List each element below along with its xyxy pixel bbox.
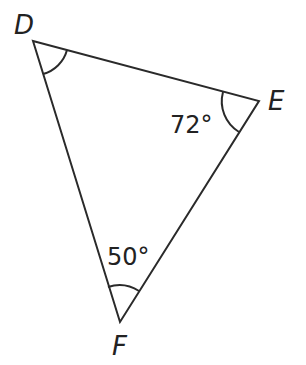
angle-value-f: 50° (107, 243, 150, 271)
angle-value-e: 72° (170, 111, 213, 139)
angle-arc-f (108, 285, 139, 291)
vertex-label-f: F (112, 331, 128, 361)
vertex-label-e: E (268, 86, 285, 116)
vertex-label-d: D (14, 10, 34, 40)
angle-arc-e (222, 92, 239, 132)
triangle-diagram: D E F 72° 50° (0, 0, 306, 365)
triangle-def (33, 41, 259, 322)
angle-arc-d (43, 50, 67, 74)
